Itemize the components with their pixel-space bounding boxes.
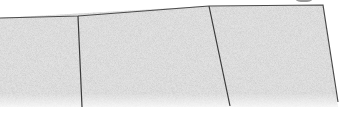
slab-sketch xyxy=(0,0,341,122)
